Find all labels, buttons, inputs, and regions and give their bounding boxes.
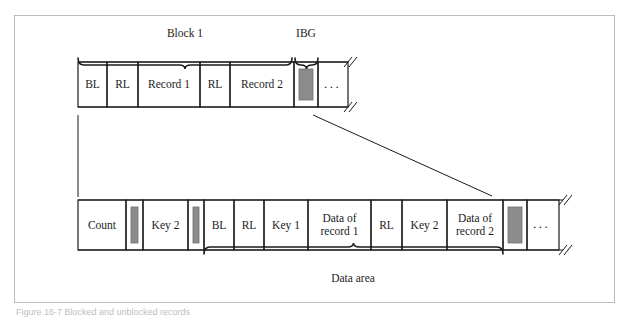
bottom-row-label-key-1: Key 1 [264,200,308,250]
brace-label-ibg: IBG [246,27,366,39]
top-row-label-rl-1: RL [107,62,138,107]
bottom-row-label-data-of-record-1: Data ofrecord 1 [308,200,371,250]
figure-caption: Figure 16-7 Blocked and unblocked record… [16,307,190,317]
connector-diagonal-line [313,115,492,196]
bottom-row-label-data-of-record-2: Data ofrecord 2 [447,200,503,250]
bottom-row-label-key-2-a: Key 2 [143,200,188,250]
top-row-ellipsis: ... [324,76,341,92]
bottom-row-label-rl-2: RL [371,200,402,250]
bottom-row-shaded-block-gap-3 [508,207,522,243]
brace-label-data-area: Data area [293,272,413,284]
bottom-row-label-rl-1: RL [234,200,264,250]
figure-root: BLRLRecord 1RLRecord 2...Block 1IBGCount… [0,0,642,320]
bottom-row-label-count: Count [78,200,126,250]
bottom-row-shaded-block-gap-1 [131,207,138,243]
top-row-label-bl: BL [78,62,107,107]
brace-label-block1: Block 1 [125,27,245,39]
brace-ibg [295,58,318,69]
top-row-label-rl-2: RL [200,62,230,107]
top-row-label-record-2: Record 2 [230,62,294,107]
bottom-row-label-bl: BL [204,200,234,250]
top-row-shaded-block-ibg-gap [299,69,313,100]
top-row-label-record-1: Record 1 [138,62,200,107]
bottom-row-shaded-block-gap-2 [193,207,199,243]
bottom-row-ellipsis: ... [533,216,550,232]
bottom-row-label-key-2-b: Key 2 [402,200,447,250]
